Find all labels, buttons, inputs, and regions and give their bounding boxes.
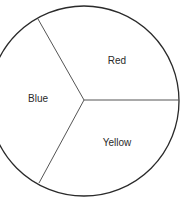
slice-label-blue: Blue <box>28 93 48 104</box>
pie-outline <box>0 6 179 196</box>
slice-label-yellow: Yellow <box>103 137 132 148</box>
pie-chart: Red Blue Yellow <box>0 0 180 199</box>
slice-label-red: Red <box>108 55 126 66</box>
